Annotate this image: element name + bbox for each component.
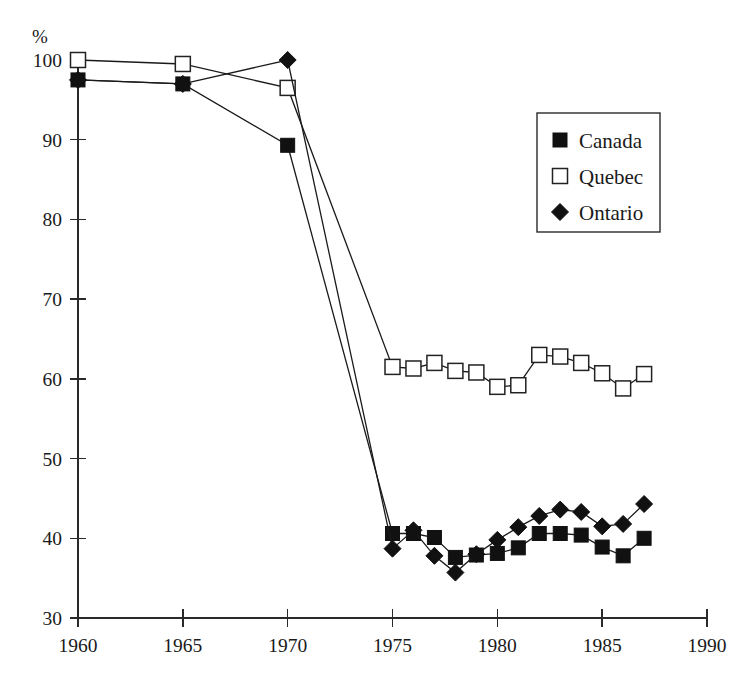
- x-tick-label: 1985: [583, 635, 622, 656]
- data-point-quebec: [532, 347, 547, 362]
- chart-container: % 30405060708090100 19601965197019751980…: [0, 0, 755, 684]
- data-point-quebec: [71, 53, 86, 68]
- data-point-canada: [281, 138, 295, 152]
- legend-marker-quebec: [553, 169, 568, 184]
- data-point-canada: [595, 540, 609, 554]
- x-tick-group: 1960196519701975198019851990: [59, 609, 727, 656]
- data-point-quebec: [385, 359, 400, 374]
- y-tick-label: 60: [43, 369, 63, 390]
- y-axis-group: % 30405060708090100: [32, 26, 86, 629]
- line-chart: % 30405060708090100 19601965197019751980…: [0, 0, 755, 684]
- y-tick-label: 70: [43, 289, 63, 310]
- data-point-ontario: [426, 547, 443, 564]
- x-tick-label: 1970: [268, 635, 307, 656]
- legend-marker-canada: [553, 133, 567, 147]
- data-point-quebec: [616, 381, 631, 396]
- x-tick-label: 1975: [373, 635, 412, 656]
- legend-label-canada: Canada: [579, 129, 643, 153]
- data-point-quebec: [448, 363, 463, 378]
- data-point-quebec: [637, 367, 652, 382]
- data-point-quebec: [406, 361, 421, 376]
- legend-label-ontario: Ontario: [579, 201, 643, 225]
- data-point-canada: [616, 549, 630, 563]
- data-point-canada: [637, 531, 651, 545]
- data-point-canada: [574, 528, 588, 542]
- x-tick-label: 1980: [478, 635, 517, 656]
- data-point-quebec: [511, 378, 526, 393]
- y-axis-title: %: [32, 26, 48, 47]
- data-point-quebec: [427, 355, 442, 370]
- data-point-ontario: [489, 531, 506, 548]
- data-point-ontario: [594, 518, 611, 535]
- data-point-canada: [553, 527, 567, 541]
- data-point-ontario: [510, 519, 527, 536]
- data-point-ontario: [552, 501, 569, 518]
- data-point-canada: [427, 530, 441, 544]
- data-point-quebec: [175, 56, 190, 71]
- y-tick-label: 40: [43, 528, 63, 549]
- y-tick-label: 90: [43, 130, 63, 151]
- y-tick-label: 50: [43, 449, 63, 470]
- data-point-quebec: [574, 355, 589, 370]
- legend-label-quebec: Quebec: [579, 165, 643, 189]
- data-point-canada: [511, 541, 525, 555]
- data-point-canada: [532, 527, 546, 541]
- data-point-ontario: [573, 503, 590, 520]
- data-point-quebec: [490, 379, 505, 394]
- data-point-quebec: [469, 365, 484, 380]
- x-tick-label: 1965: [163, 635, 202, 656]
- y-tick-label: 100: [33, 50, 62, 71]
- data-point-quebec: [553, 349, 568, 364]
- y-tick-label: 30: [43, 608, 63, 629]
- y-tick-label: 80: [43, 209, 63, 230]
- data-point-ontario: [279, 52, 296, 69]
- x-tick-label: 1990: [688, 635, 727, 656]
- data-point-ontario: [531, 507, 548, 524]
- data-point-canada: [448, 550, 462, 564]
- chart-legend: CanadaQuebecOntario: [537, 113, 660, 232]
- x-tick-label: 1960: [59, 635, 98, 656]
- data-point-quebec: [595, 366, 610, 381]
- x-axis-group: 1960196519701975198019851990: [59, 609, 727, 656]
